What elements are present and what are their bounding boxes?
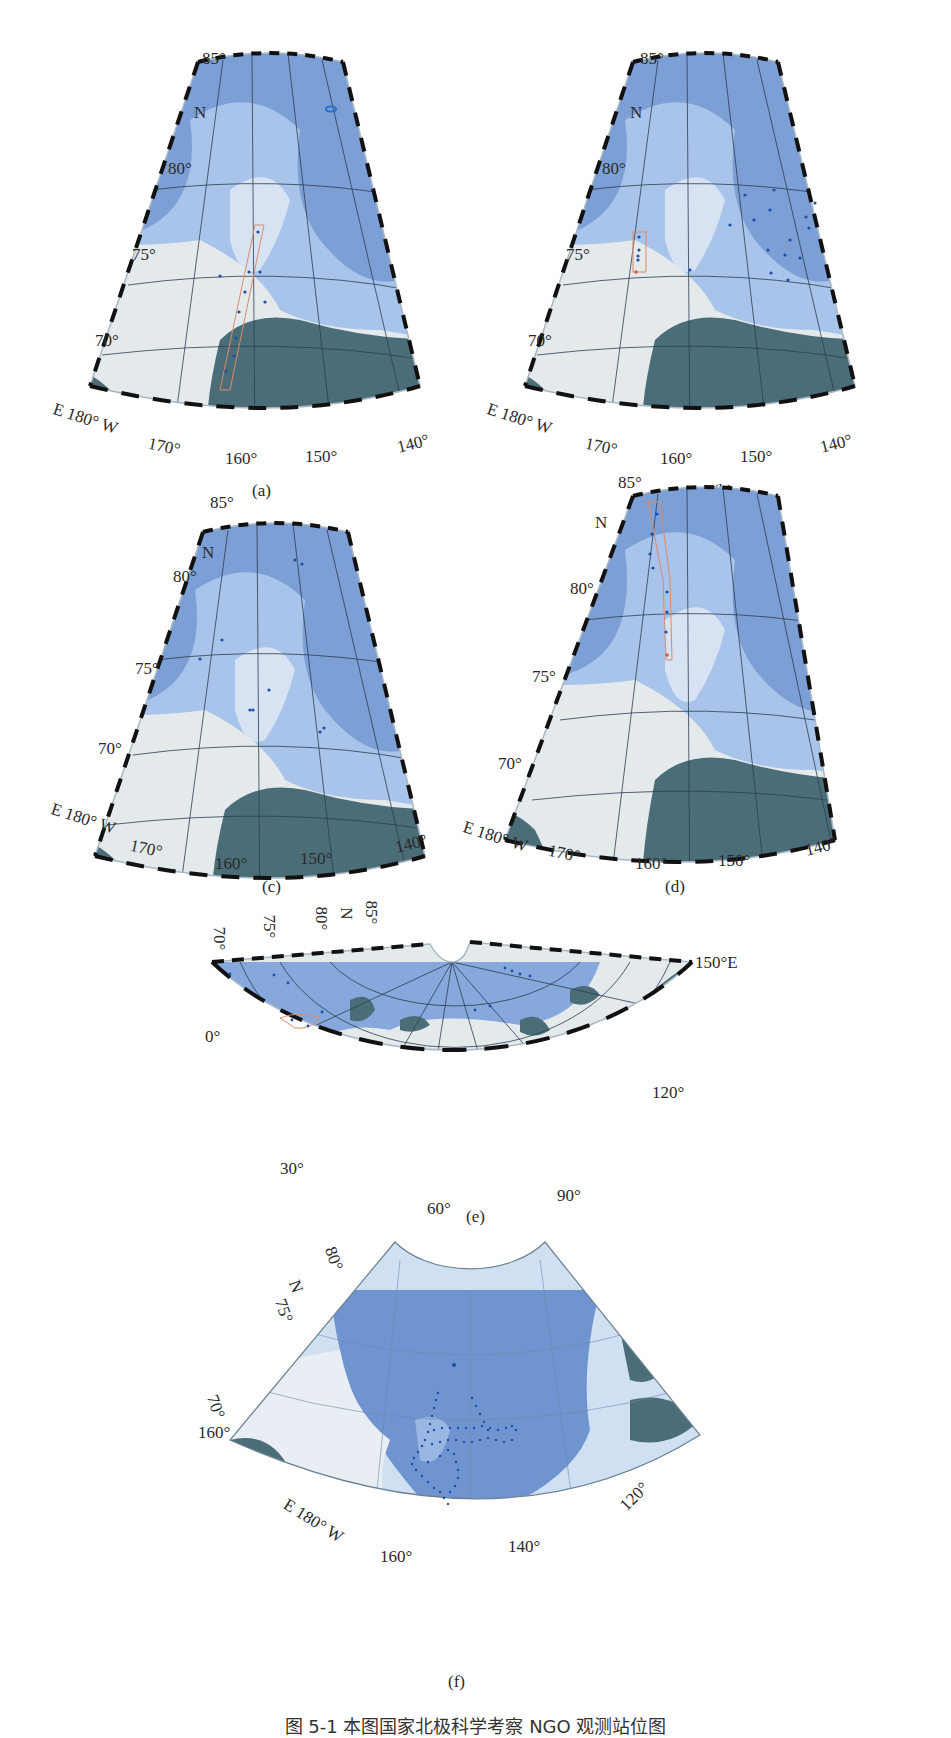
lon-label-60: 60° (427, 1200, 451, 1217)
lat-label-85: 85° (202, 50, 226, 67)
lon-label-160: 160° (225, 450, 257, 467)
lon-label-90: 90° (557, 1187, 581, 1204)
panel-label-c: (c) (262, 878, 281, 895)
lat-label-80: 80° (602, 160, 626, 177)
lat-label-85: 85° (618, 474, 642, 491)
lon-label-160: 160° (660, 450, 692, 467)
map-d-graphic (460, 510, 860, 940)
panel-label-a: (a) (252, 482, 271, 499)
lat-label-70: 70° (498, 755, 522, 772)
map-panel-f: 80° N 75° 70° 160° E 180° W 160° 140° 12… (200, 1230, 760, 1650)
north-label: N (202, 544, 214, 561)
north-label: N (630, 104, 642, 121)
map-f-graphic (200, 1230, 760, 1650)
lon-label-150: 150° (305, 448, 337, 465)
map-a-graphic (40, 40, 440, 470)
lat-label-70: 70° (528, 332, 552, 349)
lat-label-70: 70° (211, 927, 228, 951)
lon-label-150: 150° (718, 852, 750, 869)
lon-label-160: 160° (635, 855, 667, 872)
map-panel-b: 85° N 80° 75° 70° E 180° W 170° 160° 150… (440, 40, 840, 470)
lat-label-75: 75° (566, 246, 590, 263)
map-panel-c: 85° N 80° 75° 70° E 180° W 170° 160° 150… (40, 510, 440, 940)
lon-label-150: 150° (740, 448, 772, 465)
panel-label-e: (e) (466, 1208, 485, 1225)
map-panel-d: 85° N 80° 75° 70° E 180° W 170° 160° 150… (460, 510, 860, 940)
lat-label-70: 70° (98, 740, 122, 757)
lon-label-160: 160° (380, 1548, 412, 1565)
north-label: N (595, 514, 607, 531)
lon-label-150: 150° (300, 850, 332, 867)
map-c-graphic (40, 510, 440, 940)
lat-label-80: 80° (570, 580, 594, 597)
lon-label-30: 30° (280, 1160, 304, 1177)
lat-label-75: 75° (532, 668, 556, 685)
lat-label-80: 80° (168, 160, 192, 177)
panel-label-d: (d) (665, 878, 685, 895)
lon-label-150e: 150°E (695, 954, 738, 971)
map-panel-e: 70° 75° 80° N 85° 150°E 0° 120° 30° 90° … (200, 900, 760, 1210)
lat-label-75: 75° (261, 915, 278, 939)
map-panel-a: 85° N 80° 75° 70° E 180° W 170° 160° 150… (40, 40, 440, 470)
lat-label-70: 70° (95, 332, 119, 349)
lon-label-0: 0° (205, 1028, 220, 1045)
lon-label-120: 120° (652, 1084, 684, 1101)
lat-label-80: 80° (173, 568, 197, 585)
north-label: N (338, 907, 355, 919)
lat-label-85: 85° (363, 901, 380, 925)
panel-label-f: (f) (448, 1673, 465, 1690)
lat-label-80: 80° (313, 907, 330, 931)
lon-label-160-left: 160° (198, 1424, 230, 1441)
lon-label-160: 160° (215, 855, 247, 872)
lat-label-75: 75° (135, 660, 159, 677)
lon-label-140: 140° (508, 1538, 540, 1555)
north-label: N (194, 104, 206, 121)
figure-caption: 图 5-1 本图国家北极科学考察 NGO 观测站位图 (0, 1712, 951, 1738)
lat-label-85: 85° (640, 50, 664, 67)
lat-label-85: 85° (210, 494, 234, 511)
lat-label-75: 75° (132, 246, 156, 263)
